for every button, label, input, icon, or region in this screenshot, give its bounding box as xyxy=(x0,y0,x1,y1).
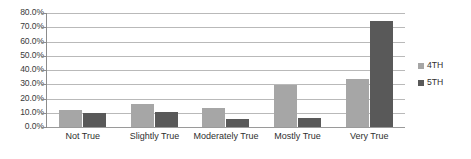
bar-5th-slightly-true[interactable] xyxy=(155,112,178,127)
bar-4th-slightly-true[interactable] xyxy=(131,104,154,128)
legend-item-5th[interactable]: 5TH xyxy=(418,74,468,91)
legend-swatch-5th-icon xyxy=(418,80,424,86)
plot-wrapper: 0.0%10.0%20.0%30.0%40.0%50.0%60.0%70.0%8… xyxy=(0,0,471,159)
bar-group xyxy=(333,13,405,127)
y-axis-tick-label: 0.0% xyxy=(2,122,44,131)
chart-legend: 4TH 5TH xyxy=(418,57,468,91)
bar-4th-very-true[interactable] xyxy=(346,79,369,127)
legend-swatch-4th-icon xyxy=(418,63,424,69)
y-axis-tick-label: 50.0% xyxy=(2,51,44,60)
legend-label-4th: 4TH xyxy=(427,61,443,70)
bar-group xyxy=(47,13,119,127)
legend-item-4th[interactable]: 4TH xyxy=(418,57,468,74)
bar-5th-mostly-true[interactable] xyxy=(298,118,321,127)
x-axis-tick-label: Slightly True xyxy=(119,131,191,142)
y-axis-tick-label: 30.0% xyxy=(2,79,44,88)
bars-layer xyxy=(47,13,405,127)
y-axis-tick-mark xyxy=(41,99,46,100)
bar-group xyxy=(190,13,262,127)
y-axis-tick-mark xyxy=(41,113,46,114)
y-axis-tick-mark xyxy=(41,27,46,28)
x-axis-tick-label: Very True xyxy=(333,131,405,142)
x-axis-tick-label: Mostly True xyxy=(262,131,334,142)
y-axis-tick-mark xyxy=(41,70,46,71)
plot-area xyxy=(47,13,405,127)
x-axis-tick-label: Not True xyxy=(47,131,119,142)
y-axis-tick-label: 40.0% xyxy=(2,65,44,74)
bar-group xyxy=(119,13,191,127)
y-axis-tick-mark xyxy=(41,13,46,14)
y-axis-tick-mark xyxy=(41,56,46,57)
axis-baseline xyxy=(47,127,405,128)
y-axis-tick-mark xyxy=(41,127,46,128)
legend-label-5th: 5TH xyxy=(427,78,443,87)
y-axis-tick-label: 80.0% xyxy=(2,8,44,17)
y-axis-tick-label: 70.0% xyxy=(2,22,44,31)
y-axis-tick-label: 10.0% xyxy=(2,108,44,117)
y-axis-tick-label: 60.0% xyxy=(2,37,44,46)
bar-4th-moderately-true[interactable] xyxy=(202,108,225,127)
bar-5th-very-true[interactable] xyxy=(370,21,393,127)
y-axis-tick-label: 20.0% xyxy=(2,94,44,103)
x-axis-tick-labels: Not TrueSlightly TrueModerately TrueMost… xyxy=(47,131,405,151)
bar-4th-not-true[interactable] xyxy=(59,110,82,127)
bar-chart: 0.0%10.0%20.0%30.0%40.0%50.0%60.0%70.0%8… xyxy=(0,0,471,159)
bar-5th-moderately-true[interactable] xyxy=(226,119,249,127)
y-axis-tick-labels: 0.0%10.0%20.0%30.0%40.0%50.0%60.0%70.0%8… xyxy=(2,0,44,159)
x-axis-tick-label: Moderately True xyxy=(190,131,262,142)
bar-4th-mostly-true[interactable] xyxy=(274,85,297,127)
bar-group xyxy=(262,13,334,127)
bar-5th-not-true[interactable] xyxy=(83,113,106,127)
y-axis-tick-mark xyxy=(41,42,46,43)
y-axis-tick-mark xyxy=(41,84,46,85)
